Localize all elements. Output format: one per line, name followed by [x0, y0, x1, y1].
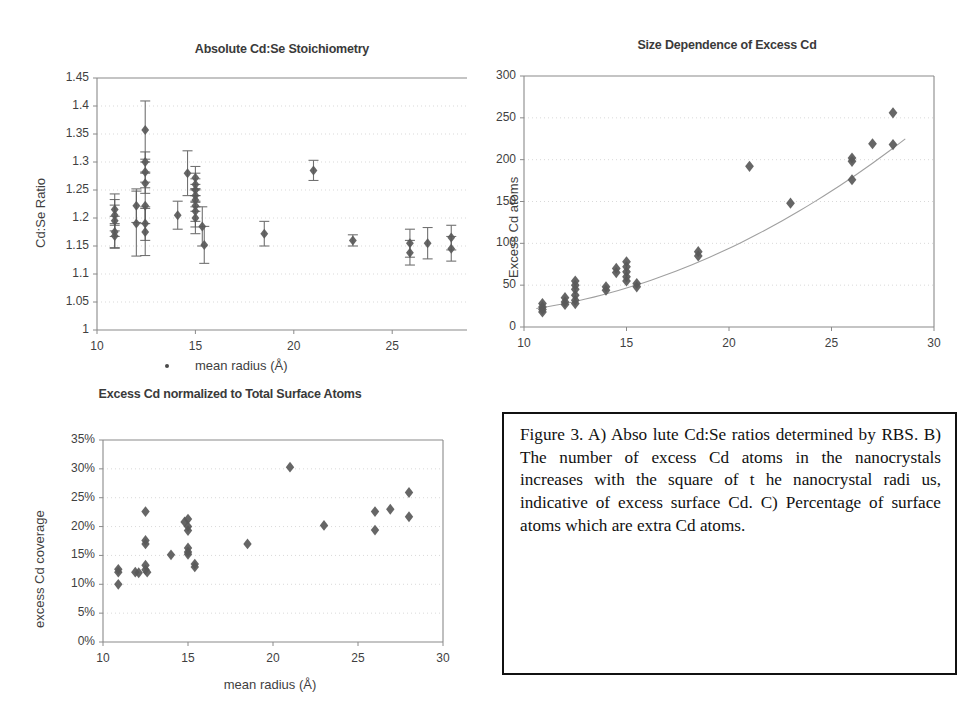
data-point-marker	[184, 168, 192, 178]
data-point-marker	[141, 506, 149, 517]
y-tick-label: 1	[35, 322, 89, 336]
data-point-marker	[167, 549, 175, 560]
panel-a-legend: mean radius (Å)	[165, 358, 287, 373]
panel-b-size-dependence-of-excess-cd: Size Dependence of Excess Cd Excess Cd a…	[480, 0, 979, 380]
x-tick-label: 20	[253, 651, 293, 665]
data-point-marker	[286, 462, 294, 473]
data-point-marker	[320, 520, 328, 531]
x-tick-label: 25	[338, 651, 378, 665]
data-point-marker	[406, 248, 414, 258]
x-tick-label: 20	[709, 336, 749, 350]
y-tick-label: 1.4	[35, 98, 89, 112]
y-tick-label: 0	[462, 319, 516, 333]
x-tick-label: 20	[274, 339, 314, 353]
panel-c-excess-cd-normalized: Excess Cd normalized to Total Surface At…	[0, 380, 480, 712]
y-tick-label: 1.1	[35, 266, 89, 280]
data-point-marker	[745, 161, 754, 172]
data-point-marker	[447, 233, 455, 243]
data-point-marker	[405, 487, 413, 498]
x-tick-label: 10	[77, 339, 117, 353]
y-tick-label: 1.05	[35, 294, 89, 308]
y-tick-label: 1.2	[35, 210, 89, 224]
data-point-marker	[868, 138, 877, 149]
y-tick-label: 1.15	[35, 238, 89, 252]
y-tick-label: 25%	[41, 490, 95, 504]
x-tick-label: 25	[812, 336, 852, 350]
x-tick-label: 10	[504, 336, 544, 350]
x-tick-label: 30	[914, 336, 954, 350]
panel-a-absolute-cdse-stoichiometry: Absolute Cd:Se Stoichiometry Cd:Se Ratio…	[0, 0, 480, 380]
data-point-marker	[141, 167, 149, 177]
y-tick-label: 250	[462, 110, 516, 124]
data-point-marker	[198, 221, 206, 231]
data-point-marker	[243, 538, 251, 549]
y-tick-label: 30%	[41, 461, 95, 475]
y-tick-label: 1.45	[35, 70, 89, 84]
y-tick-label: 35%	[41, 432, 95, 446]
data-point-marker	[371, 525, 379, 536]
figure-caption-box: Figure 3. A) Abso lute Cd:Se ratios dete…	[502, 412, 957, 675]
x-tick-label: 15	[168, 651, 208, 665]
data-point-marker	[141, 125, 149, 135]
data-point-marker	[405, 511, 413, 522]
panel-c-plot	[0, 380, 480, 712]
data-point-marker	[349, 235, 357, 245]
y-tick-label: 150	[462, 194, 516, 208]
y-tick-label: 1.25	[35, 182, 89, 196]
trendline	[536, 139, 905, 309]
y-tick-label: 300	[462, 68, 516, 82]
data-point-marker	[447, 244, 455, 254]
data-point-marker	[424, 238, 432, 248]
y-tick-label: 200	[462, 152, 516, 166]
y-tick-label: 100	[462, 235, 516, 249]
data-point-marker	[132, 201, 140, 211]
y-tick-label: 1.35	[35, 126, 89, 140]
data-point-marker	[889, 107, 898, 118]
data-point-marker	[141, 178, 149, 188]
data-point-marker	[111, 216, 119, 226]
data-point-marker	[889, 139, 898, 150]
x-tick-label: 30	[423, 651, 463, 665]
data-point-marker	[141, 201, 149, 211]
data-point-marker	[406, 238, 414, 248]
x-tick-label: 15	[175, 339, 215, 353]
y-tick-label: 0%	[41, 634, 95, 648]
data-point-marker	[200, 240, 208, 250]
y-tick-label: 10%	[41, 576, 95, 590]
data-point-marker	[141, 227, 149, 237]
data-point-marker	[786, 198, 795, 209]
data-point-marker	[371, 506, 379, 517]
data-point-marker	[141, 157, 149, 167]
x-tick-label: 10	[83, 651, 123, 665]
y-tick-label: 5%	[41, 605, 95, 619]
x-tick-label: 25	[372, 339, 412, 353]
y-tick-label: 20%	[41, 519, 95, 533]
legend-marker-icon	[165, 364, 169, 368]
panel-b-plot	[480, 0, 979, 380]
figure-caption-text: Figure 3. A) Abso lute Cd:Se ratios dete…	[520, 424, 941, 538]
y-tick-label: 1.3	[35, 154, 89, 168]
data-point-marker	[260, 229, 268, 239]
data-point-marker	[114, 579, 122, 590]
data-point-marker	[310, 165, 318, 175]
panel-a-legend-label: mean radius (Å)	[195, 358, 287, 373]
data-point-marker	[132, 219, 140, 229]
data-point-marker	[386, 504, 394, 515]
y-tick-label: 50	[462, 277, 516, 291]
x-tick-label: 15	[607, 336, 647, 350]
data-point-marker	[174, 210, 182, 220]
y-tick-label: 15%	[41, 547, 95, 561]
